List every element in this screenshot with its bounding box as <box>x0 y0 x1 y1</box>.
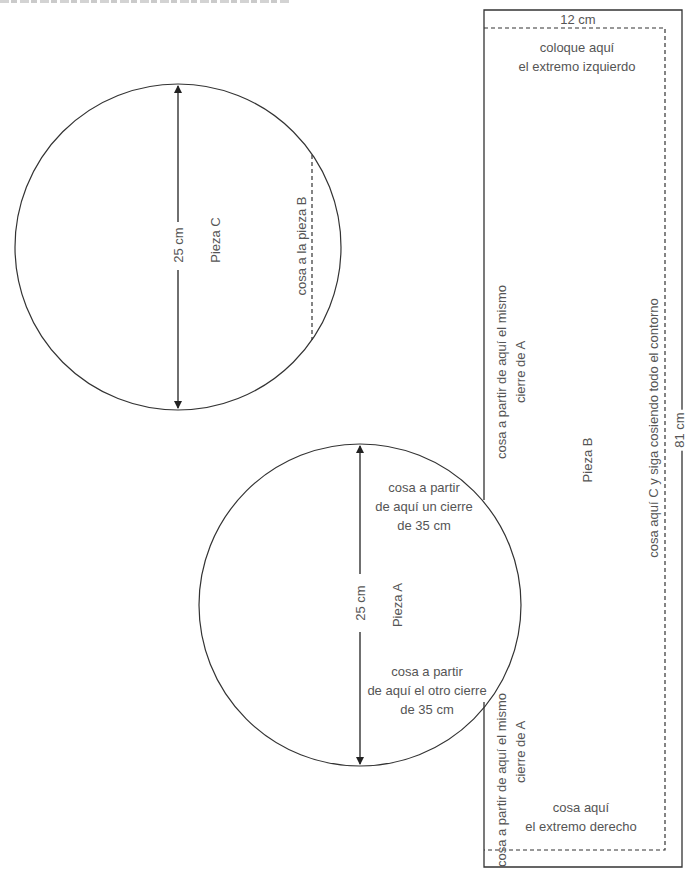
piece-b-top-note: coloque aquí el extremo izquierdo <box>518 38 635 76</box>
piece-b-width-label: 12 cm <box>557 13 598 27</box>
piece-b-length-label: 81 cm <box>673 409 687 450</box>
piece-b-right-note: cosa aquí C y siga cosiendo todo el cont… <box>644 298 663 557</box>
piece-c-seam-label: cosa a la pieza B <box>292 196 311 295</box>
piece-a-upper-zipper-note: cosa a partir de aquí un cierre de 35 cm <box>375 478 473 535</box>
piece-b-bottom-note: cosa aquí el extremo derecho <box>525 798 636 836</box>
piece-c-name: Pieza C <box>206 217 225 263</box>
piece-c-diameter-label: 25 cm <box>169 227 188 262</box>
piece-b-upper-left-note: cosa a partir de aquí el mismo cierre de… <box>492 285 530 459</box>
piece-b-lower-left-note: cosa a partir de aquí el mismo cierre de… <box>492 693 530 867</box>
piece-b-name: Pieza B <box>578 438 597 483</box>
piece-a-name: Pieza A <box>388 583 407 627</box>
piece-a-lower-zipper-note: cosa a partir de aquí el otro cierre de … <box>367 662 486 719</box>
piece-a-diameter-label: 25 cm <box>351 585 370 620</box>
